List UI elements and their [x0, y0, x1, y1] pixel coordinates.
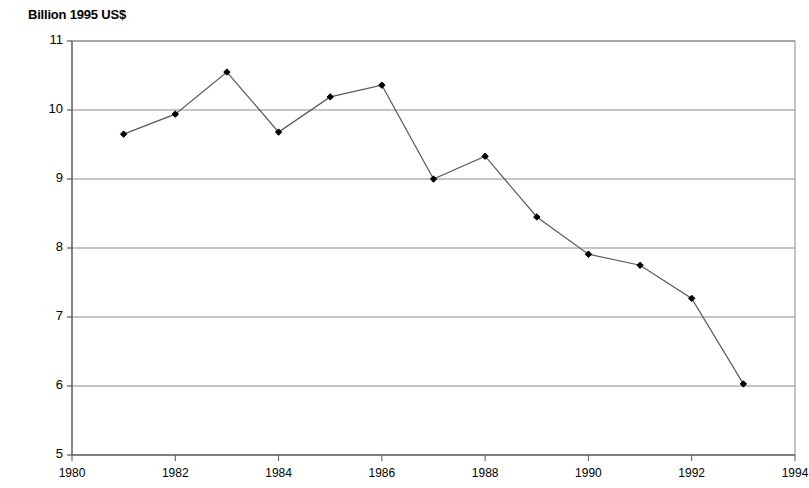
x-axis-tick-label: 1988 — [455, 466, 515, 480]
y-axis-tick-label: 6 — [23, 377, 63, 392]
x-axis-tick-label: 1994 — [765, 466, 809, 480]
y-axis-tick-marks — [67, 41, 72, 455]
line-chart: Billion 1995 US$ 111098765 1980198219841… — [0, 0, 809, 488]
x-axis-tick-label: 1982 — [145, 466, 205, 480]
y-axis-tick-label: 7 — [23, 308, 63, 323]
x-axis-tick-label: 1992 — [662, 466, 722, 480]
plot-area — [0, 0, 809, 488]
x-axis-tick-label: 1984 — [249, 466, 309, 480]
y-axis-tick-label: 11 — [23, 32, 63, 47]
y-axis-tick-label: 8 — [23, 239, 63, 254]
y-axis-tick-label: 9 — [23, 170, 63, 185]
x-axis-tick-label: 1980 — [42, 466, 102, 480]
y-axis-tick-label: 10 — [23, 101, 63, 116]
x-axis-tick-label: 1990 — [558, 466, 618, 480]
y-axis-tick-label: 5 — [23, 446, 63, 461]
x-axis-tick-label: 1986 — [352, 466, 412, 480]
x-axis-tick-marks — [72, 455, 795, 461]
